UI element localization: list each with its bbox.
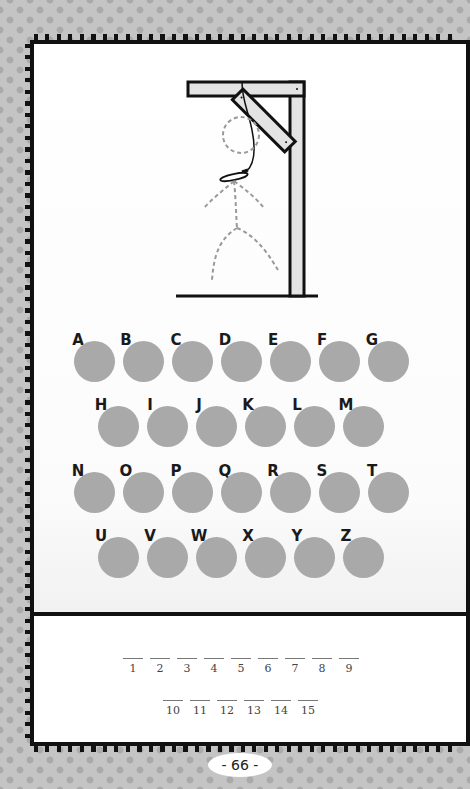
letter-button-y[interactable] — [294, 537, 335, 578]
game-panel: A B C D E F G H I J K L M — [34, 44, 466, 616]
letter-button-w[interactable] — [196, 537, 237, 578]
letter-button-o[interactable] — [123, 472, 164, 513]
answer-blank-8[interactable]: 8 — [312, 658, 332, 675]
answer-blank-1[interactable]: 1 — [123, 658, 143, 675]
hangman-drawing — [176, 80, 356, 302]
answer-blank-9[interactable]: 9 — [339, 658, 359, 675]
letter-button-l[interactable] — [294, 406, 335, 447]
page-number: - 66 - — [208, 753, 272, 777]
answer-blank-12[interactable]: 12 — [217, 700, 237, 717]
answer-blank-6[interactable]: 6 — [258, 658, 278, 675]
letter-button-t[interactable] — [368, 472, 409, 513]
letter-button-e[interactable] — [270, 341, 311, 382]
letter-button-b[interactable] — [123, 341, 164, 382]
letter-button-s[interactable] — [319, 472, 360, 513]
answer-blank-3[interactable]: 3 — [177, 658, 197, 675]
answer-blank-15[interactable]: 15 — [298, 700, 318, 717]
letter-button-q[interactable] — [221, 472, 262, 513]
answer-blank-2[interactable]: 2 — [150, 658, 170, 675]
gallows-icon — [176, 82, 318, 296]
letter-button-d[interactable] — [221, 341, 262, 382]
letter-button-v[interactable] — [147, 537, 188, 578]
page-frame: A B C D E F G H I J K L M — [30, 40, 470, 746]
letter-button-k[interactable] — [245, 406, 286, 447]
answer-blank-7[interactable]: 7 — [285, 658, 305, 675]
answer-blank-10[interactable]: 10 — [163, 700, 183, 717]
stick-figure-icon — [204, 117, 278, 280]
letter-button-f[interactable] — [319, 341, 360, 382]
letter-button-m[interactable] — [343, 406, 384, 447]
frame-bottom-teeth — [34, 746, 455, 752]
letter-button-h[interactable] — [98, 406, 139, 447]
answer-blank-5[interactable]: 5 — [231, 658, 251, 675]
letter-button-i[interactable] — [147, 406, 188, 447]
answer-blank-4[interactable]: 4 — [204, 658, 224, 675]
letter-button-u[interactable] — [98, 537, 139, 578]
letter-button-n[interactable] — [74, 472, 115, 513]
letter-button-g[interactable] — [368, 341, 409, 382]
answer-blank-13[interactable]: 13 — [244, 700, 264, 717]
answer-blank-14[interactable]: 14 — [271, 700, 291, 717]
letter-button-c[interactable] — [172, 341, 213, 382]
letter-button-a[interactable] — [74, 341, 115, 382]
letter-button-x[interactable] — [245, 537, 286, 578]
answer-blank-11[interactable]: 11 — [190, 700, 210, 717]
letter-button-r[interactable] — [270, 472, 311, 513]
letter-button-z[interactable] — [343, 537, 384, 578]
letter-button-p[interactable] — [172, 472, 213, 513]
letter-button-j[interactable] — [196, 406, 237, 447]
